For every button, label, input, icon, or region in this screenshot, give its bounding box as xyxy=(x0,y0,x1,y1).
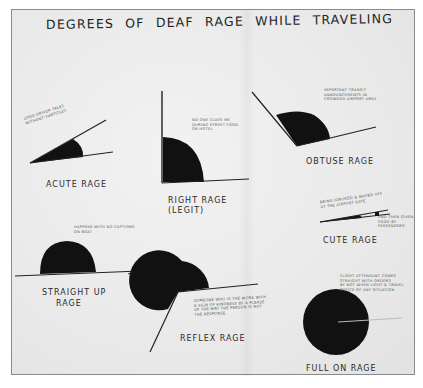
right-label-line2: (LEGIT) xyxy=(168,206,204,215)
acute-label: ACUTE RAGE xyxy=(46,180,107,189)
straight-label-line1: STRAIGHT UP xyxy=(42,288,106,297)
right-label-line1: RIGHT RAGE xyxy=(168,196,227,205)
straight-angle-shape xyxy=(15,241,140,276)
full-label: FULL ON RAGE xyxy=(306,364,377,373)
right-angle-shape xyxy=(162,91,249,183)
reflex-note: SOMEONE WHO IS THE WORK WITH A SIGN OF K… xyxy=(194,295,268,317)
right-note: NO ONE CLUES ME DURING STREET FOOD OR HO… xyxy=(192,118,238,132)
full-note: FLIGHT ATTENDANT COMES STRAIGHT WITH ORD… xyxy=(340,274,404,292)
obtuse-note: IMPORTANT TRANSIT ANNOUNCEMENTS IN CROWD… xyxy=(324,88,377,102)
obtuse-label: OBTUSE RAGE xyxy=(306,157,374,166)
straight-note: HAPPENS WITH NO CAPTIONS ON BOAT xyxy=(74,225,135,234)
reflex-label: REFLEX RAGE xyxy=(180,334,246,343)
acute-angle-shape xyxy=(30,120,113,163)
straight-label-line2: RAGE xyxy=(56,299,82,308)
cute-note-secondary: AND THEN GIVEN FOOD BY PASSENGERS xyxy=(378,215,423,229)
cute-label: CUTE RAGE xyxy=(323,236,378,245)
full-angle-shape xyxy=(303,289,402,355)
